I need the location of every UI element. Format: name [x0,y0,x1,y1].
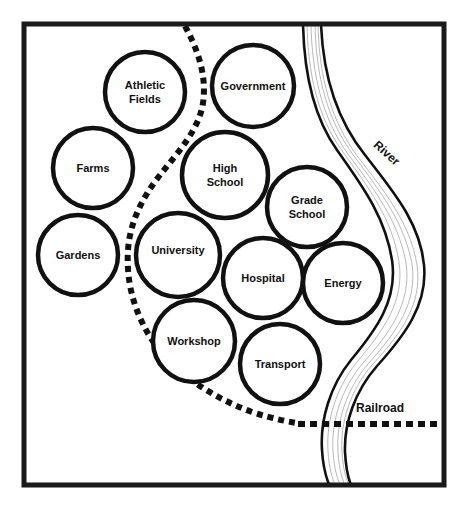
land-use-map: Athletic Fields Government Farms High Sc… [0,0,470,509]
zone-label: Gardens [56,249,101,261]
zone-energy[interactable]: Energy [303,243,383,323]
zone-high-school[interactable]: High School [182,132,268,218]
zone-transport[interactable]: Transport [240,324,320,404]
map-canvas: Athletic Fields Government Farms High Sc… [0,0,470,509]
zone-label: Farms [76,162,109,174]
zone-grade-school[interactable]: Grade School [267,167,347,247]
zone-label: Government [221,80,286,92]
zone-label: Transport [255,358,306,370]
zone-label: Grade [291,194,323,206]
zone-government[interactable]: Government [212,45,294,127]
zone-university[interactable]: University [136,213,220,297]
zone-label: School [207,176,244,188]
zone-gardens[interactable]: Gardens [38,215,118,295]
zone-label: University [151,244,205,256]
zone-label: Hospital [241,272,284,284]
zone-workshop[interactable]: Workshop [153,300,235,382]
zone-hospital[interactable]: Hospital [223,238,303,318]
zone-label: High [213,162,238,174]
zone-label: Energy [324,277,362,289]
zone-label: Athletic [125,79,165,91]
zone-label: School [289,208,326,220]
railroad-label: Railroad [356,401,404,415]
zone-label: Workshop [167,335,221,347]
zone-label: Fields [129,93,161,105]
zone-athletic-fields[interactable]: Athletic Fields [105,52,185,132]
zone-farms[interactable]: Farms [53,128,133,208]
